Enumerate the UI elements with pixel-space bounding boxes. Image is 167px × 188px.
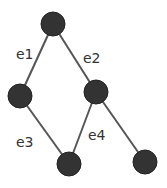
edge-e3	[20, 96, 69, 164]
edge-label-e2: e2	[83, 50, 101, 66]
node-bottom-right	[133, 150, 157, 174]
graph-diagram: e1 e2 e3 e4	[0, 0, 167, 188]
node-middle-right	[84, 80, 108, 104]
edge-label-e4: e4	[88, 127, 106, 143]
edge-label-e1: e1	[16, 46, 34, 62]
node-left	[8, 84, 32, 108]
node-top	[41, 12, 65, 36]
node-bottom	[57, 152, 81, 176]
edge-label-e3: e3	[16, 134, 34, 150]
